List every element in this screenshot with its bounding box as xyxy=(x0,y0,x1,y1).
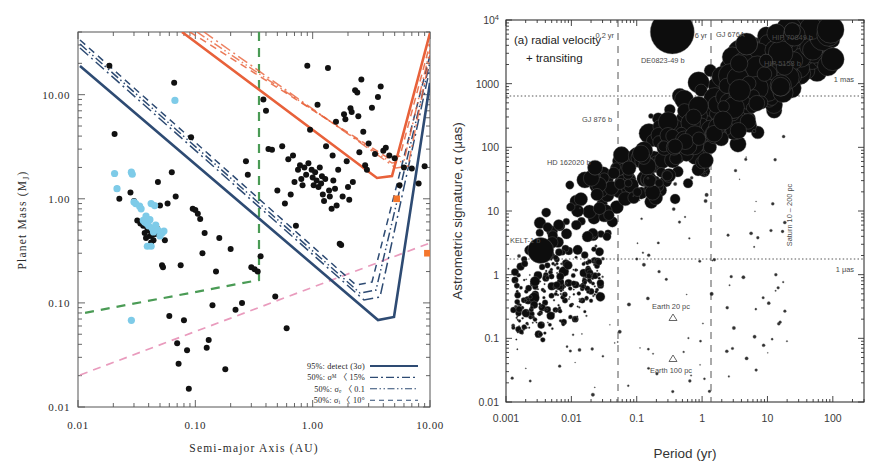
left-planet-point xyxy=(320,191,326,197)
right-planet-point xyxy=(589,299,593,303)
left-planet-point xyxy=(360,129,366,135)
right-planet-point xyxy=(781,230,784,233)
right-planet-point xyxy=(540,306,542,308)
right-planet-point xyxy=(633,188,642,197)
right-planet-point xyxy=(753,246,755,248)
right-planet-point xyxy=(560,289,563,292)
right-planet-point xyxy=(536,288,538,290)
left-planet-point xyxy=(397,182,403,188)
right-planet-point xyxy=(547,322,548,323)
right-planet-point xyxy=(584,286,586,288)
right-x-tick: 1 xyxy=(699,412,705,424)
left-y-axis-label-main: Planet Mass (M xyxy=(16,180,29,270)
right-planet-point xyxy=(604,210,615,221)
right-planet-point xyxy=(586,315,588,317)
right-planet-point xyxy=(543,332,546,335)
right-planet-point xyxy=(564,292,566,294)
left-y-axis-label-end: ) xyxy=(16,171,29,176)
right-planet-point xyxy=(652,353,654,355)
right-planet-point xyxy=(639,200,640,201)
right-planet-point xyxy=(749,95,765,111)
period-0p2yr-label: 0.2 yr xyxy=(596,31,615,40)
right-planet-point xyxy=(730,122,746,138)
right-planet-point xyxy=(608,167,620,179)
right-planet-point xyxy=(586,290,590,294)
left-planet-point xyxy=(263,108,269,114)
right-panel: (a) radial velocity + transiting 0.2 yr … xyxy=(444,0,888,475)
left-planet-point xyxy=(342,116,348,122)
left-planet-point xyxy=(184,347,190,353)
left-planet-point xyxy=(165,201,171,207)
right-planet-point xyxy=(573,245,583,255)
right-planet-point xyxy=(517,349,518,350)
left-planet-point xyxy=(305,160,311,166)
right-planet-point xyxy=(670,194,680,204)
right-planet-point xyxy=(558,304,560,306)
left-planet-point xyxy=(330,177,336,183)
right-planet-point xyxy=(587,259,592,264)
right-planet-point xyxy=(728,376,730,378)
right-planet-point xyxy=(645,185,660,200)
left-planet-point xyxy=(369,105,375,111)
left-transiting-point xyxy=(113,185,120,192)
left-legend-label: 50%: σᴹ 〈 15% xyxy=(307,373,365,382)
left-planet-point xyxy=(243,158,249,164)
right-planet-point xyxy=(553,281,560,288)
left-planet-point xyxy=(321,198,327,204)
right-planet-point xyxy=(595,248,603,256)
right-planet-point xyxy=(530,306,533,309)
right-planet-point xyxy=(566,282,568,284)
left-planet-point xyxy=(213,269,219,275)
right-planet-point xyxy=(637,243,638,244)
right-planet-point xyxy=(615,178,626,189)
right-planet-point xyxy=(713,111,732,130)
right-planet-point xyxy=(647,348,649,350)
right-planet-point xyxy=(591,247,596,252)
right-planet-point xyxy=(529,380,531,382)
right-planet-point xyxy=(782,135,785,138)
right-planet-point xyxy=(618,330,622,334)
right-planet-point xyxy=(756,236,759,239)
right-planet-point xyxy=(703,378,705,380)
svg-text:Saturn 10 – 200 pc: Saturn 10 – 200 pc xyxy=(785,183,794,246)
right-planet-point xyxy=(729,284,731,286)
right-planet-point xyxy=(718,101,730,113)
right-planet-point xyxy=(729,79,751,101)
left-planet-point xyxy=(349,109,355,115)
right-planet-point xyxy=(538,332,543,337)
right-planet-point xyxy=(556,272,558,274)
left-planet-point xyxy=(216,235,222,241)
right-planet-point xyxy=(538,322,545,329)
right-planet-point xyxy=(568,298,570,300)
right-planet-point xyxy=(529,274,530,275)
right-planet-point xyxy=(576,316,578,318)
left-planet-point xyxy=(282,201,288,207)
left-planet-point xyxy=(335,167,341,173)
right-planet-point xyxy=(734,169,737,172)
left-planet-point xyxy=(176,361,182,367)
right-planet-point xyxy=(732,326,735,329)
left-transiting-point xyxy=(129,171,136,178)
right-planet-point xyxy=(684,216,686,218)
right-planet-point xyxy=(536,322,537,323)
left-planet-point xyxy=(372,151,378,157)
right-planet-point xyxy=(640,347,641,348)
right-planet-point xyxy=(515,292,521,298)
saturn-range-label: Saturn 10 – 200 pc xyxy=(785,183,794,246)
right-planet-point xyxy=(550,268,553,271)
right-planet-point xyxy=(527,324,529,326)
right-planet-point xyxy=(774,273,777,276)
left-transiting-point xyxy=(160,227,167,234)
right-planet-point xyxy=(541,288,544,291)
left-planet-point xyxy=(173,194,179,200)
left-planet-point xyxy=(312,169,318,175)
right-planet-point xyxy=(777,286,780,289)
right-planet-point xyxy=(782,281,784,283)
right-planet-point xyxy=(522,324,527,329)
left-x-tick: 10.00 xyxy=(416,419,444,431)
left-planet-point xyxy=(325,65,331,71)
right-planet-point xyxy=(686,294,687,295)
right-planet-point xyxy=(545,263,551,269)
left-planet-point xyxy=(322,176,328,182)
left-planet-point xyxy=(332,186,338,192)
